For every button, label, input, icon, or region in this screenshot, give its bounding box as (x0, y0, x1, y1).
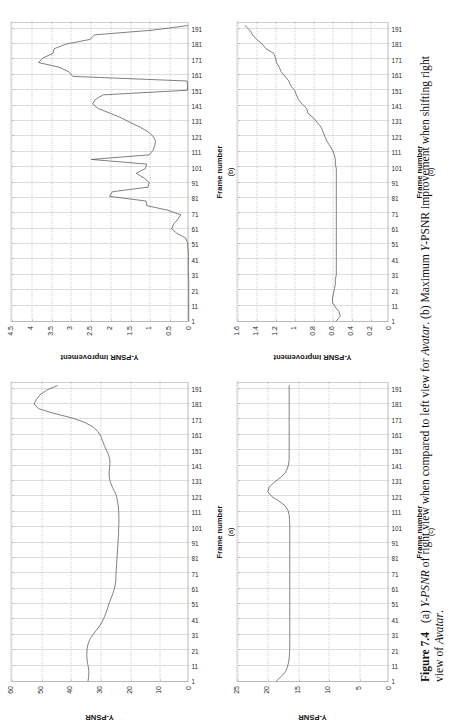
caption-a-end: . (418, 319, 431, 325)
x-tick-label: 161 (191, 73, 202, 79)
y-tick-label: 3 (65, 326, 72, 352)
x-tick-label: 41 (391, 258, 398, 264)
y-tick-label: 0 (384, 686, 391, 712)
figure-number: Figure 7.4 (418, 632, 431, 682)
x-tick-label: 51 (191, 602, 198, 608)
x-tick-label: 131 (191, 119, 202, 125)
x-tick-label: 181 (391, 402, 402, 408)
chart-panel-b: 00.511.522.533.544.511121314151617181911… (10, 0, 248, 322)
caption-b-italic: Y (418, 245, 431, 251)
x-tick-label: 121 (391, 135, 402, 141)
x-tick-label: 51 (391, 602, 398, 608)
y-tick-label: 40 (65, 686, 72, 712)
x-tick-label: 141 (391, 464, 402, 470)
y-tick-label: 10 (323, 686, 330, 712)
x-tick-label: 61 (391, 587, 398, 593)
series-line-a (11, 381, 189, 681)
panel-subcaption: (a) (225, 382, 234, 682)
x-tick-label: 71 (191, 212, 198, 218)
x-tick-label: 121 (191, 495, 202, 501)
y-tick-label: 10 (154, 686, 161, 712)
y-tick-label: 0 (184, 686, 191, 712)
x-tick-label: 41 (191, 258, 198, 264)
figure-caption: Figure 7.4(a) Y-PSNR of right view when … (418, 34, 446, 682)
x-tick-label: 91 (391, 541, 398, 547)
y-tick-label: 1.6 (232, 326, 239, 352)
x-tick-label: 21 (391, 649, 398, 655)
y-tick-label: 5 (354, 686, 361, 712)
x-tick-label: 21 (191, 289, 198, 295)
x-tick-label: 151 (391, 449, 402, 455)
x-tick-label: 81 (191, 196, 198, 202)
x-tick-label: 171 (191, 58, 202, 64)
x-tick-label: 71 (191, 572, 198, 578)
y-tick-label: 1.5 (125, 326, 132, 352)
x-tick-label: 191 (191, 27, 202, 33)
x-tick-label: 11 (391, 664, 398, 670)
x-tick-label: 91 (391, 181, 398, 187)
y-tick-label: 0.4 (346, 326, 353, 352)
y-tick-label: 0 (384, 326, 391, 352)
plot-area-a (10, 382, 188, 682)
x-tick-label: 121 (391, 495, 402, 501)
panel-grid: 0102030405060111213141516171819110111112… (0, 0, 467, 726)
y-tick-label: 1.4 (251, 326, 258, 352)
caption-part-b: (b) Maximum (418, 251, 431, 319)
x-tick-label: 111 (191, 510, 201, 516)
caption-a-italic2: Avatar (418, 325, 431, 356)
x-axis-title: Frame number (214, 22, 223, 322)
x-tick-label: 181 (191, 42, 202, 48)
x-tick-label: 141 (191, 464, 202, 470)
x-tick-label: 161 (391, 433, 402, 439)
y-axis-title: Y-PSNR (85, 713, 113, 722)
x-tick-label: 151 (191, 449, 202, 455)
x-tick-label: 101 (391, 166, 402, 172)
x-tick-label: 1 (391, 319, 395, 325)
x-tick-label: 151 (191, 89, 202, 95)
caption-a-italic: Y-PSNR (418, 570, 431, 607)
chart-panel-a: 0102030405060111213141516171819110111112… (10, 322, 248, 682)
x-tick-label: 171 (391, 58, 402, 64)
x-tick-label: 181 (391, 42, 402, 48)
y-tick-label: 3.5 (46, 326, 53, 352)
x-tick-label: 121 (191, 135, 202, 141)
x-tick-label: 161 (391, 73, 402, 79)
x-tick-label: 151 (391, 89, 402, 95)
y-tick-label: 20 (125, 686, 132, 712)
plot-area-c (236, 382, 388, 682)
y-tick-label: 2.5 (85, 326, 92, 352)
x-tick-label: 11 (191, 664, 198, 670)
x-tick-label: 141 (191, 104, 202, 110)
y-tick-label: 25 (232, 686, 239, 712)
y-axis-title: Y-PSNR improvement (273, 353, 351, 362)
x-tick-label: 1 (191, 679, 195, 685)
x-tick-label: 191 (391, 387, 402, 393)
x-tick-label: 31 (191, 633, 198, 639)
caption-part-a: (a) (418, 607, 431, 623)
x-tick-label: 31 (391, 273, 398, 279)
x-tick-label: 31 (191, 273, 198, 279)
y-tick-label: 50 (36, 686, 43, 712)
x-tick-label: 1 (391, 679, 395, 685)
x-tick-label: 181 (191, 402, 202, 408)
x-tick-label: 1 (191, 319, 195, 325)
x-tick-label: 31 (391, 633, 398, 639)
x-tick-label: 41 (191, 618, 198, 624)
y-tick-label: 4 (26, 326, 33, 352)
y-tick-label: 1 (289, 326, 296, 352)
caption-a-rest: of right view when compared to left view… (418, 356, 431, 570)
x-tick-label: 131 (391, 119, 402, 125)
y-tick-label: 0.5 (164, 326, 171, 352)
y-axis-title: Y-PSNR improvement (60, 353, 138, 362)
x-tick-label: 91 (191, 541, 198, 547)
x-tick-label: 81 (391, 196, 398, 202)
chart-panel-c: 0510152025111213141516171819110111112113… (236, 322, 448, 682)
x-tick-label: 111 (391, 150, 401, 156)
x-tick-label: 171 (391, 418, 402, 424)
x-tick-label: 51 (191, 242, 198, 248)
x-tick-label: 81 (391, 556, 398, 562)
x-tick-label: 81 (191, 556, 198, 562)
plot-area-b (10, 22, 188, 322)
x-tick-label: 161 (191, 433, 202, 439)
series-line-b (11, 21, 189, 321)
